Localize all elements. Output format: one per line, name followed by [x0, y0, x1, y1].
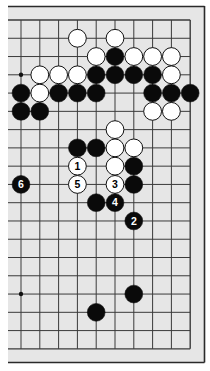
- stone-disc: [106, 48, 124, 66]
- white-stone: 5: [69, 176, 87, 194]
- stone-disc: [50, 84, 68, 102]
- white-stone: 3: [106, 176, 124, 194]
- white-stone: [125, 139, 143, 157]
- stone-disc: [163, 102, 181, 120]
- stone-disc: [31, 66, 49, 84]
- stone-disc: [125, 285, 143, 303]
- stone-disc: [12, 102, 30, 120]
- black-stone: [50, 84, 68, 102]
- black-stone: [87, 139, 105, 157]
- black-stone: [125, 285, 143, 303]
- white-stone: [50, 66, 68, 84]
- stone-disc: [87, 66, 105, 84]
- move-number-label: 6: [18, 178, 24, 190]
- move-number-label: 1: [74, 160, 80, 172]
- white-stone: [106, 121, 124, 139]
- move-number-label: 5: [74, 178, 80, 190]
- move-number-label: 4: [112, 196, 118, 208]
- stone-disc: [144, 48, 162, 66]
- stone-disc: [31, 102, 49, 120]
- stone-disc: [144, 102, 162, 120]
- stone-disc: [87, 48, 105, 66]
- stone-disc: [125, 139, 143, 157]
- black-stone: [125, 66, 143, 84]
- black-stone: [69, 139, 87, 157]
- white-stone: [69, 66, 87, 84]
- white-stone: [69, 29, 87, 47]
- go-board: 165342: [0, 0, 210, 371]
- black-stone: 4: [106, 194, 124, 212]
- black-stone: [87, 303, 105, 321]
- white-stone: [144, 48, 162, 66]
- black-stone: [87, 84, 105, 102]
- black-stone: [87, 66, 105, 84]
- stone-disc: [87, 194, 105, 212]
- white-stone: [163, 48, 181, 66]
- stone-disc: [69, 84, 87, 102]
- stone-disc: [87, 139, 105, 157]
- white-stone: 1: [69, 157, 87, 175]
- black-stone: [106, 48, 124, 66]
- black-stone: [144, 84, 162, 102]
- white-stone: [163, 66, 181, 84]
- black-stone: [12, 84, 30, 102]
- stone-disc: [163, 48, 181, 66]
- black-stone: [125, 157, 143, 175]
- white-stone: [106, 157, 124, 175]
- stone-disc: [106, 66, 124, 84]
- stone-disc: [125, 48, 143, 66]
- white-stone: [106, 139, 124, 157]
- stone-disc: [106, 29, 124, 47]
- stone-disc: [31, 84, 49, 102]
- white-stone: [163, 102, 181, 120]
- black-stone: [87, 194, 105, 212]
- black-stone: [106, 66, 124, 84]
- stone-disc: [144, 66, 162, 84]
- stone-disc: [163, 66, 181, 84]
- white-stone: [31, 84, 49, 102]
- stone-disc: [125, 66, 143, 84]
- stone-disc: [87, 84, 105, 102]
- stone-disc: [181, 84, 199, 102]
- white-stone: [31, 66, 49, 84]
- stone-disc: [12, 84, 30, 102]
- stone-disc: [125, 157, 143, 175]
- black-stone: [125, 176, 143, 194]
- black-stone: 2: [125, 212, 143, 230]
- black-stone: [31, 102, 49, 120]
- stone-disc: [106, 121, 124, 139]
- black-stone: 6: [12, 176, 30, 194]
- black-stone: [163, 84, 181, 102]
- stone-disc: [144, 84, 162, 102]
- stone-disc: [69, 139, 87, 157]
- stone-disc: [69, 66, 87, 84]
- black-stone: [12, 102, 30, 120]
- white-stone: [125, 48, 143, 66]
- white-stone: [106, 29, 124, 47]
- white-stone: [87, 48, 105, 66]
- black-stone: [181, 84, 199, 102]
- stone-disc: [69, 29, 87, 47]
- black-stone: [144, 66, 162, 84]
- move-number-label: 2: [131, 215, 137, 227]
- stone-disc: [50, 66, 68, 84]
- move-number-label: 3: [112, 178, 118, 190]
- stone-disc: [125, 176, 143, 194]
- stone-disc: [106, 157, 124, 175]
- stone-disc: [163, 84, 181, 102]
- stone-disc: [106, 139, 124, 157]
- star-point-icon: [19, 292, 23, 296]
- white-stone: [144, 102, 162, 120]
- black-stone: [69, 84, 87, 102]
- stone-disc: [87, 303, 105, 321]
- star-point-icon: [19, 73, 23, 77]
